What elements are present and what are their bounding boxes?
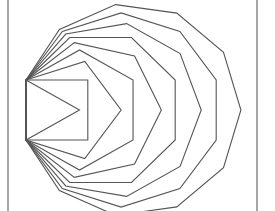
nested-polygons-diagram	[0, 0, 275, 211]
triangle-polygon	[26, 80, 80, 140]
heptagon-polygon	[26, 43, 161, 178]
pentagon-polygon	[26, 61, 121, 158]
polygon-group	[26, 5, 241, 211]
octagon-polygon	[26, 38, 175, 183]
